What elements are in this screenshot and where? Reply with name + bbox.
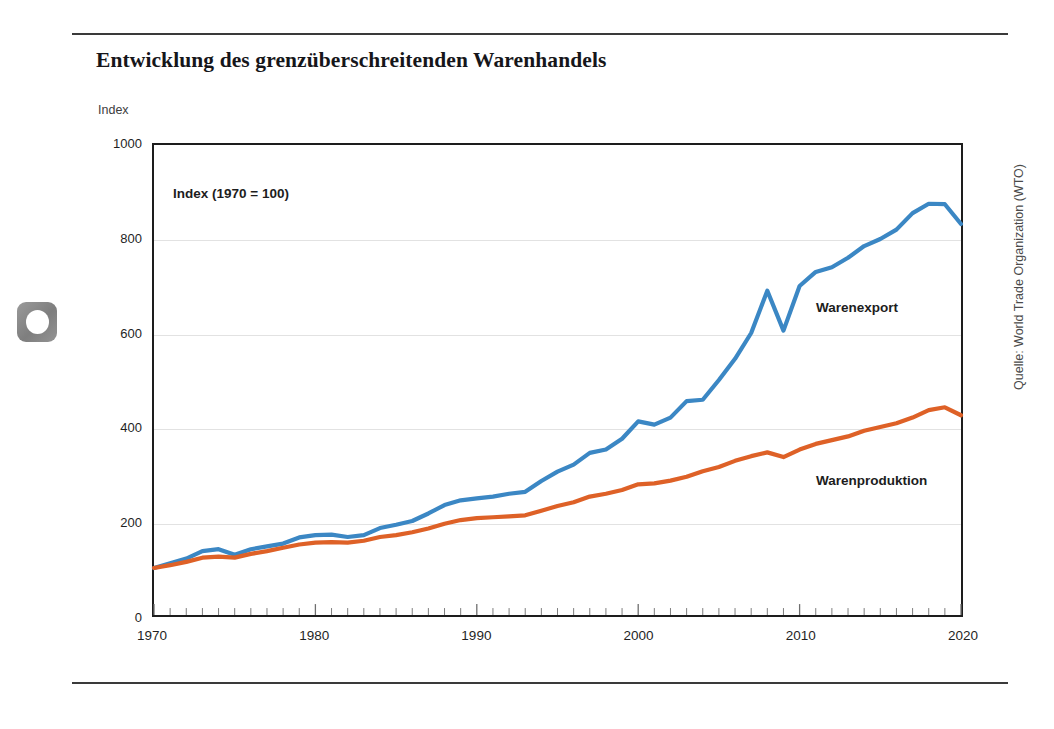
- source-note: Quelle: World Trade Organization (WTO): [1012, 164, 1026, 390]
- y-tick-0: 0: [98, 610, 142, 625]
- series-label-warenproduktion: Warenproduktion: [816, 473, 927, 488]
- line-chart-plot-area: [152, 143, 963, 617]
- chart-series-layer: [154, 145, 961, 615]
- footer-divider-bottom: [72, 682, 1008, 684]
- index-base-annotation: Index (1970 = 100): [173, 186, 289, 201]
- y-tick-800: 800: [98, 230, 142, 245]
- y-axis-unit-label: Index: [98, 103, 129, 117]
- y-tick-600: 600: [98, 325, 142, 340]
- x-tick-2000: 2000: [604, 628, 674, 643]
- y-tick-200: 200: [98, 515, 142, 530]
- y-tick-400: 400: [98, 420, 142, 435]
- x-tick-1970: 1970: [117, 628, 187, 643]
- series-label-warenexport: Warenexport: [816, 300, 898, 315]
- rounded-square-dot-icon: [17, 302, 57, 342]
- series-line-warenexport: [154, 204, 961, 568]
- x-tick-1990: 1990: [441, 628, 511, 643]
- x-tick-1980: 1980: [279, 628, 349, 643]
- x-tick-2020: 2020: [928, 628, 998, 643]
- y-tick-1000: 1000: [98, 136, 142, 151]
- x-tick-2010: 2010: [766, 628, 836, 643]
- header-divider-top: [72, 33, 1008, 35]
- page-title: Entwicklung des grenzüberschreitenden Wa…: [96, 48, 607, 73]
